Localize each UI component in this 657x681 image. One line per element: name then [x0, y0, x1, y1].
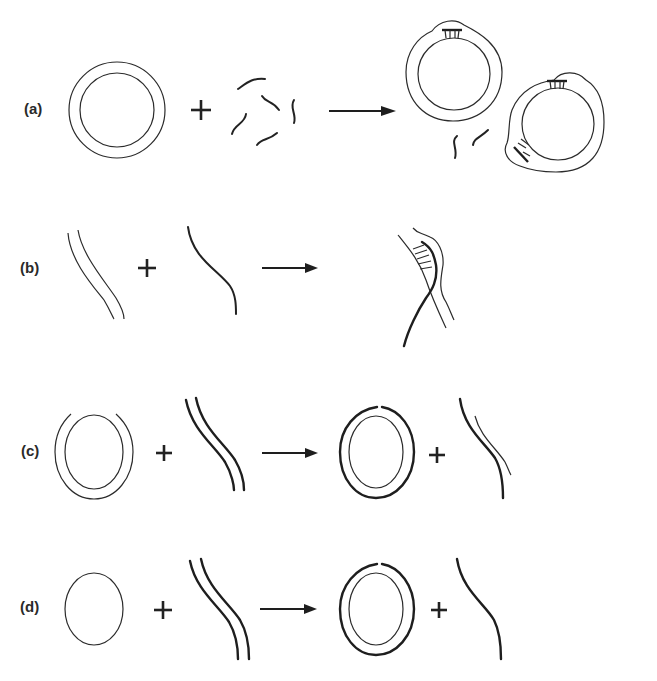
plus-icon — [138, 259, 156, 277]
arrow-icon — [262, 263, 318, 273]
d-loop-structure — [398, 228, 454, 346]
diagram-canvas — [0, 0, 657, 681]
linear-duplex-b — [68, 230, 124, 319]
nicked-circle-d — [340, 564, 414, 655]
displaced-strand-c — [460, 399, 511, 498]
short-fragments — [232, 79, 295, 145]
plus-icon — [191, 100, 211, 120]
arrow-icon — [329, 106, 396, 116]
row-a — [69, 21, 604, 172]
single-strand-d — [457, 559, 501, 659]
plus-icon — [431, 602, 447, 618]
single-circle-d — [65, 573, 123, 645]
linear-duplex-thick-c — [186, 398, 244, 490]
annealed-circle-2 — [505, 73, 604, 172]
double-circle-a — [69, 62, 165, 158]
nicked-circle-c — [340, 407, 414, 498]
row-c — [55, 398, 511, 499]
annealed-circle-1 — [406, 21, 502, 121]
unpaired-fragments — [454, 130, 488, 158]
plus-icon — [429, 447, 445, 463]
row-d — [65, 559, 501, 659]
plus-icon — [154, 601, 172, 619]
row-b — [68, 227, 454, 346]
arrow-icon — [262, 448, 318, 458]
single-strand-b — [188, 227, 236, 314]
plus-icon — [156, 445, 172, 461]
gapped-circle-c — [55, 414, 133, 499]
linear-duplex-thick-d — [190, 559, 249, 659]
arrow-icon — [260, 604, 317, 614]
